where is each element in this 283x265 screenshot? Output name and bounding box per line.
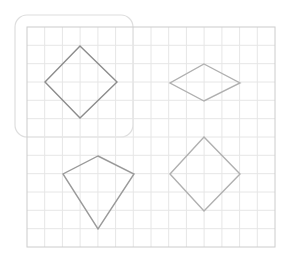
grid-lines bbox=[27, 27, 275, 247]
grid-diagram: Square (rotated)RhombusKiteSquare (rotat… bbox=[0, 0, 283, 265]
